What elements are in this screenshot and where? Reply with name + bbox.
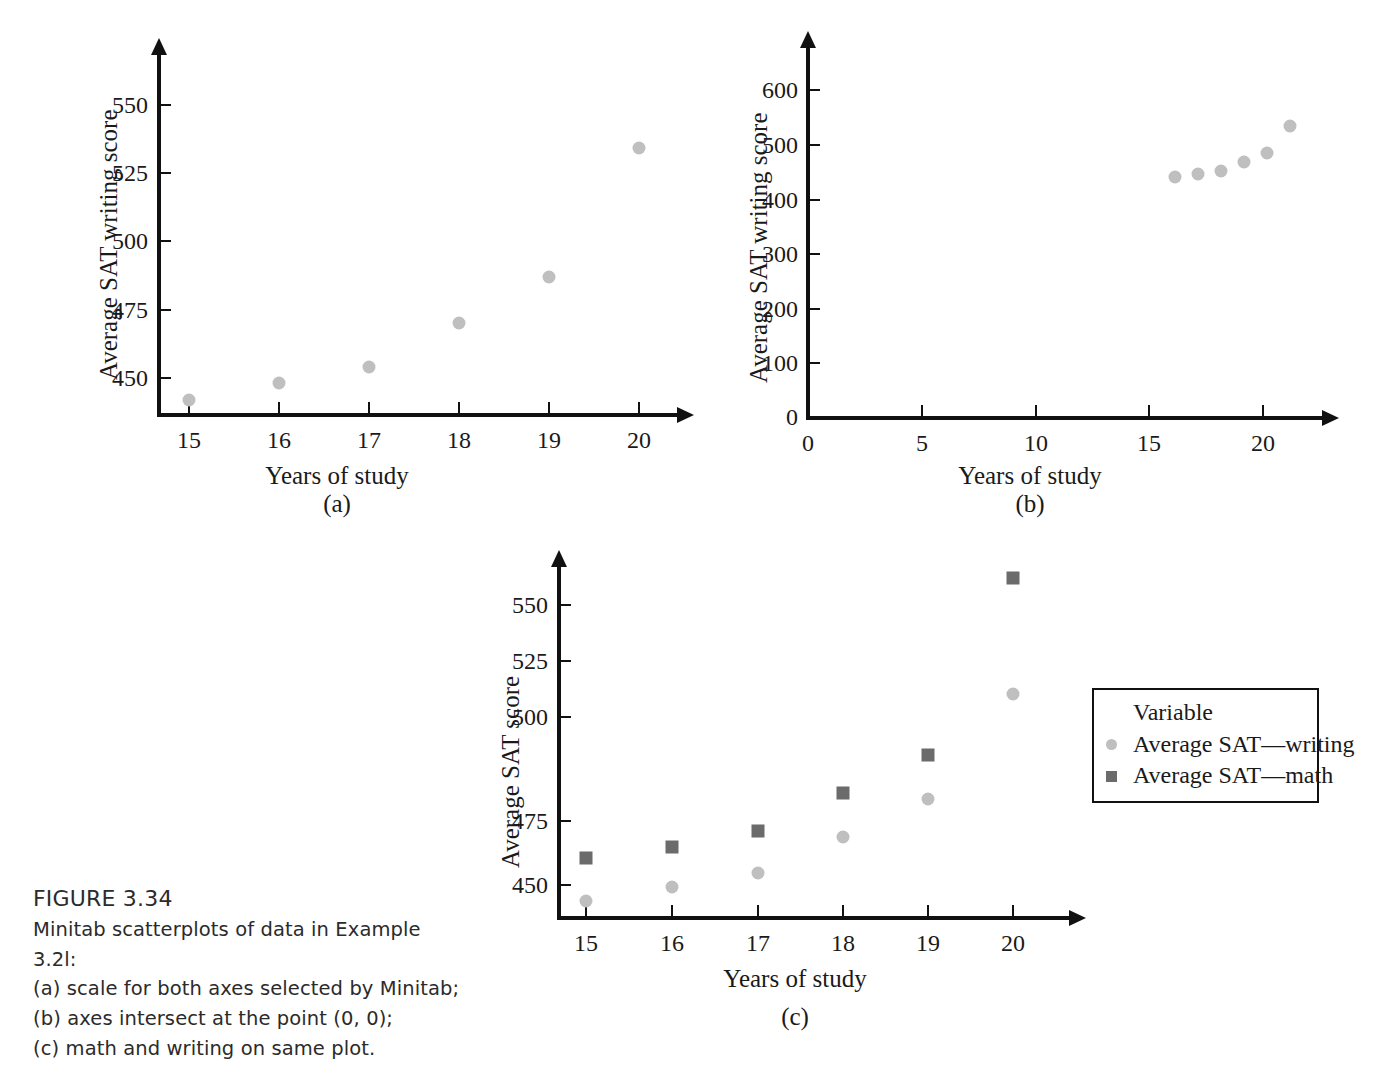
legend-entry-label: Average SAT—writing [1133, 729, 1355, 761]
panel-c-x-axis-arrow [1069, 910, 1086, 926]
panel-a-x-tick [548, 402, 550, 414]
panel-a-y-axis-arrow [151, 38, 167, 55]
panel-a-x-tick-label: 17 [357, 428, 381, 452]
panel-a-point-writing [543, 271, 556, 284]
caption-line: (a) scale for both axes selected by Mini… [33, 974, 463, 1004]
panel-b-y-tick [808, 89, 820, 91]
panel-c-point-math [580, 852, 593, 865]
panel-a-x-tick [638, 402, 640, 414]
panel-c-x-tick [757, 905, 759, 917]
panel-c-y-tick-label: 450 [500, 873, 548, 897]
panel-a-letter: (a) [323, 490, 351, 518]
panel-b-point-writing [1284, 120, 1297, 133]
panel-b-x-tick [921, 405, 923, 417]
legend-title: Variable [1106, 697, 1303, 729]
panel-b-y-tick-label: 600 [750, 78, 798, 102]
panel-a-x-tick-label: 15 [177, 428, 201, 452]
panel-c-point-writing [752, 867, 765, 880]
panel-b-x-axis [806, 416, 1322, 420]
panel-c-point-math [1007, 572, 1020, 585]
panel-c-x-axis [557, 916, 1069, 920]
panel-a-x-tick-label: 16 [267, 428, 291, 452]
panel-c-letter: (c) [781, 1003, 809, 1031]
caption-line: Minitab scatterplots of data in Example … [33, 915, 463, 974]
panel-a: 450 475 500 525 550 15 16 17 18 19 20 Ye… [0, 0, 700, 520]
legend-circle-marker-icon [1106, 739, 1133, 750]
panel-a-x-axis [157, 413, 677, 417]
panel-a-x-axis-arrow [677, 407, 694, 423]
panel-b-x-axis-arrow [1322, 410, 1339, 426]
panel-c-x-tick-label: 19 [916, 931, 940, 955]
panel-a-x-tick [278, 402, 280, 414]
panel-b-y-axis [806, 48, 810, 420]
panel-a-point-writing [183, 394, 196, 407]
panel-b-x-tick-label: 10 [1024, 431, 1048, 455]
panel-c-x-tick-label: 18 [831, 931, 855, 955]
panel-b-y-tick [808, 308, 820, 310]
panel-a-y-tick [159, 104, 171, 106]
panel-a-y-tick [159, 172, 171, 174]
panel-b-x-tick-label: 5 [916, 431, 928, 455]
panel-c-point-writing [666, 881, 679, 894]
panel-b: 0 100 200 300 400 500 600 0 5 10 15 20 Y… [700, 0, 1399, 520]
panel-c-x-tick-label: 15 [574, 931, 598, 955]
panel-b-y-axis-title: Average SAT writing score [745, 112, 773, 383]
panel-c-point-math [922, 749, 935, 762]
panel-c-point-writing [580, 895, 593, 908]
panel-b-y-tick [808, 199, 820, 201]
panel-c-x-tick [1012, 905, 1014, 917]
legend-entry-label: Average SAT—math [1133, 760, 1333, 792]
panel-c-x-tick-label: 20 [1001, 931, 1025, 955]
panel-c-x-tick [671, 905, 673, 917]
panel-c-y-axis-arrow [551, 550, 567, 567]
panel-b-letter: (b) [1015, 490, 1044, 518]
panel-c-x-tick-label: 17 [746, 931, 770, 955]
panel-a-x-tick [368, 402, 370, 414]
panel-c-y-axis [557, 567, 561, 919]
panel-a-point-writing [363, 361, 376, 374]
panel-a-x-tick-label: 20 [627, 428, 651, 452]
figure-caption: FIGURE 3.34 Minitab scatterplots of data… [33, 882, 463, 1063]
panel-b-x-axis-title: Years of study [958, 462, 1101, 490]
panel-b-x-tick [1035, 405, 1037, 417]
panel-c-point-writing [837, 831, 850, 844]
panel-b-x-tick-label: 15 [1137, 431, 1161, 455]
legend-entry-math[interactable]: Average SAT—math [1106, 760, 1303, 792]
panel-b-point-writing [1192, 168, 1205, 181]
caption-line: (c) math and writing on same plot. [33, 1034, 463, 1064]
panel-a-x-tick-label: 19 [537, 428, 561, 452]
legend-entry-writing[interactable]: Average SAT—writing [1106, 729, 1303, 761]
panel-b-y-tick [808, 253, 820, 255]
panel-c-y-tick [559, 716, 571, 718]
panel-c-point-math [837, 787, 850, 800]
panel-c-y-tick [559, 660, 571, 662]
panel-b-point-writing [1215, 165, 1228, 178]
panel-b-point-writing [1261, 147, 1274, 160]
panel-b-x-tick [1148, 405, 1150, 417]
panel-c-legend: Variable Average SAT—writing Average SAT… [1092, 688, 1319, 803]
caption-line: (b) axes intersect at the point (0, 0); [33, 1004, 463, 1034]
panel-a-point-writing [633, 142, 646, 155]
panel-a-y-axis-title: Average SAT writing score [95, 109, 123, 380]
panel-c-x-tick [842, 905, 844, 917]
panel-a-point-writing [453, 317, 466, 330]
panel-a-y-tick [159, 309, 171, 311]
panel-a-x-tick [458, 402, 460, 414]
panel-c-x-tick-label: 16 [660, 931, 684, 955]
panel-b-point-writing [1169, 171, 1182, 184]
panel-b-y-tick [808, 362, 820, 364]
panel-a-y-tick [159, 240, 171, 242]
panel-a-point-writing [273, 377, 286, 390]
panel-c-x-tick [927, 905, 929, 917]
panel-c-point-writing [1007, 688, 1020, 701]
panel-b-x-tick [807, 405, 809, 417]
panel-c-y-tick-label: 550 [500, 593, 548, 617]
panel-b-y-tick [808, 144, 820, 146]
panel-c-point-math [666, 841, 679, 854]
panel-c-y-axis-title: Average SAT score [497, 676, 525, 868]
panel-a-x-axis-title: Years of study [265, 462, 408, 490]
panel-b-point-writing [1238, 156, 1251, 169]
panel-c-x-axis-title: Years of study [723, 965, 866, 993]
panel-c-point-math [752, 825, 765, 838]
panel-b-x-tick-label: 0 [802, 431, 814, 455]
